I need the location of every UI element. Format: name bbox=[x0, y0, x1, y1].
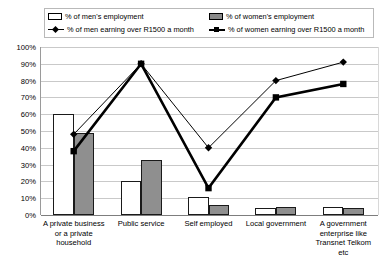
gridline-0 bbox=[41, 215, 378, 216]
legend-item-women-earning: % of women earning over R1500 a month bbox=[209, 23, 364, 36]
square-marker-icon bbox=[214, 27, 219, 32]
square-marker-icon bbox=[273, 94, 279, 100]
legend-marker-men-earning bbox=[48, 25, 64, 34]
legend-item-women-employment: % of women's employment bbox=[209, 10, 314, 23]
y-tick-label: 50% bbox=[21, 127, 36, 136]
legend-item-men-earning: % of men earning over R1500 a month bbox=[48, 23, 194, 36]
legend-marker-women-earning bbox=[209, 25, 225, 34]
y-axis-labels: 100%90%80%70%60%50%40%30%20%10%0% bbox=[0, 47, 36, 215]
y-tick-label: 30% bbox=[21, 160, 36, 169]
square-marker-icon bbox=[138, 61, 144, 67]
y-tick-label: 80% bbox=[21, 76, 36, 85]
chart-legend: % of men's employment % of men earning o… bbox=[44, 8, 374, 38]
x-tick-label-line: A government bbox=[310, 219, 377, 229]
legend-label-women-employment: % of women's employment bbox=[226, 12, 314, 21]
x-tick-label-line: enterprise like bbox=[310, 229, 377, 239]
y-tick-label: 90% bbox=[21, 59, 36, 68]
x-tick-label: A private businessor a privatehousehold bbox=[40, 219, 107, 248]
x-tick-label-line: Local government bbox=[242, 219, 309, 229]
y-tick-label: 10% bbox=[21, 194, 36, 203]
lines-layer bbox=[40, 47, 377, 215]
x-tick-label-line: Transnet Telkom bbox=[310, 238, 377, 248]
x-tick-label: Local government bbox=[242, 219, 309, 229]
y-tick-label: 70% bbox=[21, 93, 36, 102]
x-tick-label-line: Public service bbox=[107, 219, 174, 229]
y-tick-label: 0% bbox=[25, 211, 36, 220]
legend-swatch-men-employment bbox=[48, 13, 62, 20]
square-marker-icon bbox=[340, 81, 346, 87]
x-tick-label: Self employed bbox=[175, 219, 242, 229]
chart-container: % of men's employment % of men earning o… bbox=[0, 0, 384, 273]
square-marker-icon bbox=[71, 148, 77, 154]
x-tick-label-line: Self employed bbox=[175, 219, 242, 229]
x-axis-labels: A private businessor a privatehouseholdP… bbox=[40, 219, 377, 273]
line-women-earning bbox=[74, 64, 344, 188]
line-men-earning bbox=[74, 62, 344, 148]
x-tick-label-line: or a private bbox=[40, 229, 107, 239]
y-tick-label: 20% bbox=[21, 177, 36, 186]
x-tick-label-line: A private business bbox=[40, 219, 107, 229]
y-tick-label: 60% bbox=[21, 110, 36, 119]
x-tick-label: A governmententerprise likeTransnet Telk… bbox=[310, 219, 377, 257]
y-tick-label: 100% bbox=[17, 43, 36, 52]
x-tick-label-line: etc bbox=[310, 248, 377, 258]
legend-swatch-women-employment bbox=[209, 13, 223, 20]
square-marker-icon bbox=[205, 185, 211, 191]
y-tick-label: 40% bbox=[21, 143, 36, 152]
legend-label-men-employment: % of men's employment bbox=[65, 12, 144, 21]
x-tick-label: Public service bbox=[107, 219, 174, 229]
x-tick-label-line: household bbox=[40, 238, 107, 248]
diamond-marker-icon bbox=[340, 58, 347, 65]
diamond-marker-icon bbox=[52, 25, 59, 32]
legend-label-men-earning: % of men earning over R1500 a month bbox=[67, 25, 194, 34]
legend-item-men-employment: % of men's employment bbox=[48, 10, 144, 23]
legend-label-women-earning: % of women earning over R1500 a month bbox=[228, 25, 364, 34]
